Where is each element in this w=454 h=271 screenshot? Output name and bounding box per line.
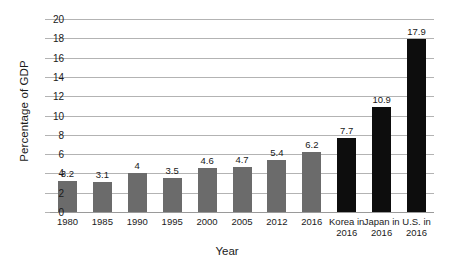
bar: [372, 107, 391, 212]
y-tick-mark: [45, 58, 50, 59]
x-axis-title: Year: [0, 245, 454, 257]
bar: [198, 168, 217, 212]
bar-value-label: 17.9: [394, 26, 440, 37]
y-tick-mark: [45, 212, 50, 213]
bar-value-label: 3.5: [149, 165, 195, 176]
y-tick-mark: [45, 135, 50, 136]
bar-value-label: 7.7: [324, 125, 370, 136]
gridline: [50, 19, 434, 20]
y-tick-mark: [45, 193, 50, 194]
y-tick-mark: [45, 19, 50, 20]
bar: [337, 138, 356, 212]
y-axis-title: Percentage of GDP: [18, 31, 30, 191]
x-tick-label: U.S. in2016: [394, 216, 440, 238]
bar-value-label: 6.2: [289, 139, 335, 150]
bar: [128, 173, 147, 212]
bar-value-label: 10.9: [359, 94, 405, 105]
gridline: [50, 58, 434, 59]
y-tick-mark: [45, 77, 50, 78]
bar: [267, 160, 286, 212]
x-tick-label-line: 2016: [394, 227, 440, 238]
y-tick-mark: [45, 96, 50, 97]
gridline: [50, 212, 434, 213]
bar: [407, 39, 426, 212]
y-tick-mark: [45, 116, 50, 117]
y-tick-mark: [45, 154, 50, 155]
plot-area: [50, 19, 434, 212]
bar: [302, 152, 321, 212]
x-tick-label-line: U.S. in: [394, 216, 440, 227]
gridline: [50, 38, 434, 39]
bar: [93, 182, 112, 212]
y-tick-mark: [45, 38, 50, 39]
bar: [163, 178, 182, 212]
bar-chart: Percentage of GDP 02468101214161820 1980…: [0, 0, 454, 271]
gridline: [50, 77, 434, 78]
bar: [233, 167, 252, 212]
